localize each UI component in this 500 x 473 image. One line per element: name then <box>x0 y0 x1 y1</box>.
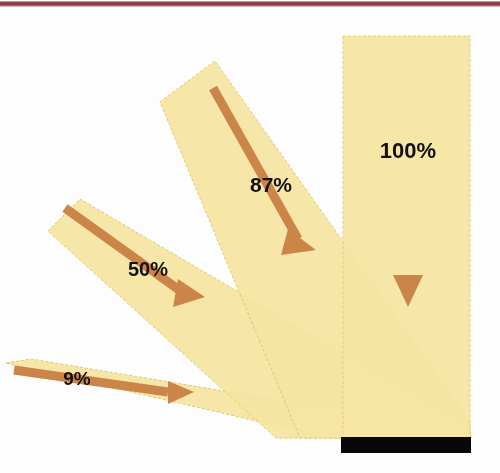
absorbing-surface-bar <box>341 437 471 453</box>
diagram-canvas: 9% 50% 87% 100% <box>0 0 500 473</box>
label-50: 50% <box>128 258 168 280</box>
beam-scene: 9% 50% 87% 100% <box>0 0 500 473</box>
label-9: 9% <box>63 368 91 389</box>
label-87: 87% <box>250 173 292 196</box>
label-100: 100% <box>380 138 436 163</box>
